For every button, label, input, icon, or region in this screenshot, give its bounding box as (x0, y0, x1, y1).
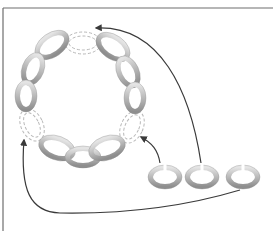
chain-ring-diagram (0, 0, 273, 231)
link-right-lower (124, 82, 146, 114)
ring-opening (242, 164, 245, 171)
loose-ring-1 (148, 164, 182, 189)
arrow-ring3-to-left-gap (23, 140, 240, 213)
gap-top (65, 32, 101, 54)
loose-rings (148, 164, 260, 189)
arrow-ring1-to-right-gap (141, 137, 160, 163)
loose-ring-2 (185, 164, 219, 189)
ring-opening (201, 164, 204, 171)
chain-links (15, 24, 146, 168)
loose-ring-3 (226, 164, 260, 189)
link-left-lower (15, 80, 37, 112)
arrow-ring2-to-top-gap (96, 28, 201, 163)
link-bottom-right (85, 130, 129, 166)
link-top-left (30, 24, 75, 65)
ring-opening (164, 164, 167, 171)
diagram-canvas (0, 0, 273, 231)
